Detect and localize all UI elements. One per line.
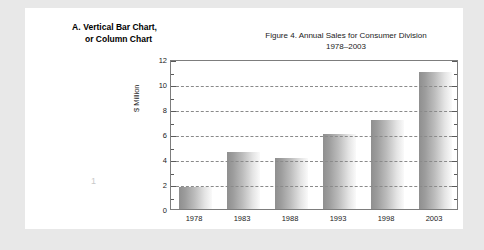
- figure-title: Figure 4. Annual Sales for Consumer Divi…: [221, 30, 471, 52]
- x-axis-tick-label: 1998: [378, 214, 395, 223]
- section-heading-line1: Vertical Bar Chart,: [83, 22, 157, 32]
- axis-tick-minor: [171, 149, 174, 150]
- axis-tick-major: [171, 111, 176, 112]
- axis-tick-major: [452, 86, 457, 87]
- plot-area: [170, 60, 458, 210]
- axis-tick-major: [452, 111, 457, 112]
- y-axis-tick-label: 2: [163, 181, 167, 190]
- y-axis-tick-label: 12: [159, 56, 167, 65]
- x-axis-tick-label: 2003: [426, 214, 443, 223]
- axis-tick-major: [171, 161, 176, 162]
- page-number: 1: [91, 176, 96, 186]
- axis-tick-minor: [171, 199, 174, 200]
- axis-tick-minor: [454, 99, 457, 100]
- axis-tick-minor: [171, 74, 174, 75]
- axis-tick-minor: [454, 124, 457, 125]
- axis-tick-major: [171, 136, 176, 137]
- grid-line: [171, 161, 457, 162]
- axis-tick-minor: [454, 74, 457, 75]
- bar-chart: $ Million 024681012 19781983198819931998…: [133, 60, 473, 230]
- x-axis-tick-label: 1988: [282, 214, 299, 223]
- grid-line: [171, 186, 457, 187]
- y-axis-tick-labels: 024681012: [145, 60, 167, 210]
- x-axis-tick-label: 1983: [234, 214, 251, 223]
- axis-tick-major: [452, 136, 457, 137]
- axis-tick-minor: [171, 124, 174, 125]
- x-axis-tick-labels: 197819831988199319982003: [170, 214, 458, 228]
- section-heading-marker: A.: [72, 22, 81, 32]
- axis-tick-minor: [171, 174, 174, 175]
- grid-line: [171, 86, 457, 87]
- grid-line: [171, 111, 457, 112]
- bar: [323, 134, 356, 209]
- section-heading: A. Vertical Bar Chart, or Column Chart: [72, 22, 225, 45]
- x-axis-tick-label: 1978: [186, 214, 203, 223]
- y-axis-label: $ Million: [132, 84, 141, 112]
- bar: [371, 120, 404, 209]
- axis-tick-major: [452, 186, 457, 187]
- y-axis-tick-label: 8: [163, 106, 167, 115]
- axis-tick-minor: [454, 174, 457, 175]
- content-panel: A. Vertical Bar Chart, or Column Chart 1…: [25, 8, 463, 229]
- section-heading-line2: or Column Chart: [85, 34, 152, 44]
- bar: [275, 158, 308, 209]
- figure-title-subtitle: 1978–2003: [221, 41, 471, 52]
- page-root: A. Vertical Bar Chart, or Column Chart 1…: [0, 0, 484, 250]
- bar: [419, 72, 452, 210]
- axis-tick-minor: [171, 99, 174, 100]
- axis-tick-major: [171, 86, 176, 87]
- y-axis-tick-label: 6: [163, 131, 167, 140]
- figure-title-main: Figure 4. Annual Sales for Consumer Divi…: [265, 31, 426, 40]
- axis-tick-major: [171, 186, 176, 187]
- y-axis-tick-label: 4: [163, 156, 167, 165]
- axis-tick-minor: [454, 149, 457, 150]
- x-axis-tick-label: 1993: [330, 214, 347, 223]
- bar: [179, 187, 212, 210]
- grid-line: [171, 136, 457, 137]
- y-axis-tick-label: 0: [163, 206, 167, 215]
- axis-tick-major: [452, 61, 457, 62]
- axis-tick-minor: [454, 199, 457, 200]
- axis-tick-major: [452, 161, 457, 162]
- axis-tick-major: [171, 61, 176, 62]
- y-axis-tick-label: 10: [159, 81, 167, 90]
